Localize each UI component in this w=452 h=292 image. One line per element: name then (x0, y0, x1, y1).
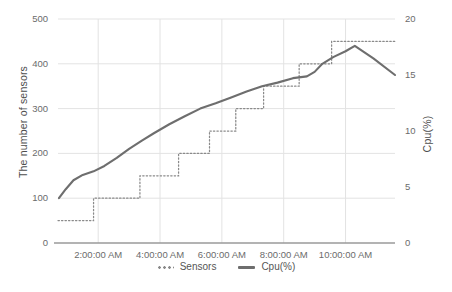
x-axis-tick-label: 10:00:00 AM (306, 249, 386, 260)
y-axis-right-tick-label: 5 (405, 181, 439, 192)
horizontal-gridlines (58, 19, 395, 198)
legend-dotted-swatch-icon (157, 266, 174, 269)
y-axis-left-title: The number of sensors (17, 52, 29, 192)
y-axis-left-tick-label: 400 (14, 58, 48, 69)
chart-container: The number of sensors Cpu(%) 01002003004… (0, 0, 452, 292)
y-axis-left-tick-label: 200 (14, 147, 48, 158)
y-axis-left-tick-label: 100 (14, 192, 48, 203)
series-sensors-line (58, 41, 395, 220)
y-axis-left-tick-label: 500 (14, 13, 48, 24)
y-axis-left-tick-label: 300 (14, 103, 48, 114)
y-axis-right-tick-label: 20 (405, 13, 439, 24)
y-axis-right-tick-label: 0 (405, 237, 439, 248)
plot-area (58, 19, 395, 243)
legend-line-swatch-icon (238, 266, 255, 269)
legend-label: Sensors (180, 262, 217, 272)
legend-item[interactable]: Cpu(%) (238, 262, 295, 272)
legend-label: Cpu(%) (261, 262, 295, 272)
y-axis-left-tick-label: 0 (14, 237, 48, 248)
chart-legend: SensorsCpu(%) (0, 262, 452, 272)
legend-item[interactable]: Sensors (157, 262, 217, 272)
y-axis-right-tick-label: 10 (405, 125, 439, 136)
series-cpu-line (59, 46, 395, 198)
y-axis-right-tick-label: 15 (405, 69, 439, 80)
plot-svg (58, 19, 395, 243)
